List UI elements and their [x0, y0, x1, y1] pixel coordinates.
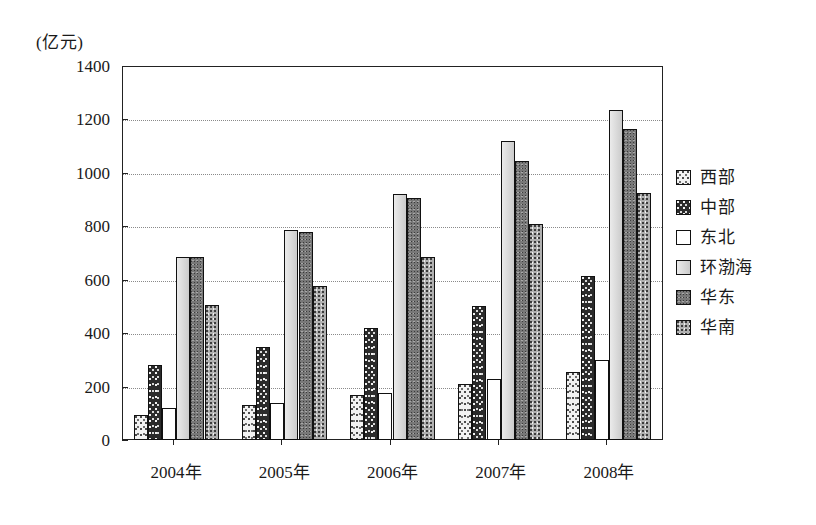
legend-swatch-icon	[676, 230, 691, 245]
bar	[566, 372, 580, 440]
legend-label: 中部	[700, 199, 735, 216]
x-tick-label: 2007年	[451, 458, 551, 483]
legend-swatch-icon	[676, 170, 691, 185]
legend-label: 环渤海	[700, 259, 753, 276]
legend-item-东北: 东北	[676, 222, 753, 252]
bar	[472, 306, 486, 440]
bar	[487, 379, 501, 440]
legend-swatch-icon	[676, 200, 691, 215]
bar	[176, 257, 190, 440]
bar	[284, 230, 298, 440]
y-tick-label: 400	[0, 325, 110, 342]
bars-layer	[122, 66, 663, 440]
bar	[378, 393, 392, 440]
bar	[623, 129, 637, 440]
legend-item-中部: 中部	[676, 192, 753, 222]
legend-label: 华南	[700, 319, 735, 336]
bar	[515, 161, 529, 440]
bar	[364, 328, 378, 440]
y-tick-label: 0	[0, 432, 110, 449]
bar	[313, 286, 327, 440]
bar	[637, 193, 651, 440]
bar	[270, 403, 284, 440]
legend-swatch-icon	[676, 320, 691, 335]
bar	[458, 384, 472, 440]
bar-chart: (亿元) 1400120010008006004002000 2004年2005…	[0, 0, 816, 525]
bar	[393, 194, 407, 440]
y-tick-label: 200	[0, 379, 110, 396]
y-tick-label: 600	[0, 272, 110, 289]
legend-label: 东北	[700, 229, 735, 246]
x-tick-mark	[390, 440, 391, 445]
bar	[190, 257, 204, 440]
x-tick-mark	[281, 440, 282, 445]
y-tick-label: 1200	[0, 111, 110, 128]
bar	[205, 305, 219, 440]
bar	[350, 395, 364, 440]
legend-item-华东: 华东	[676, 282, 753, 312]
legend-item-环渤海: 环渤海	[676, 252, 753, 282]
bar	[609, 110, 623, 440]
y-axis-unit-label: (亿元)	[36, 28, 83, 53]
legend-swatch-icon	[676, 290, 691, 305]
bar	[595, 360, 609, 440]
x-tick-label: 2008年	[559, 458, 659, 483]
legend-label: 西部	[700, 169, 735, 186]
bar	[421, 257, 435, 440]
x-tick-label: 2006年	[343, 458, 443, 483]
bar	[256, 347, 270, 440]
bar	[162, 408, 176, 440]
x-tick-label: 2005年	[234, 458, 334, 483]
legend: 西部中部东北环渤海华东华南	[676, 162, 753, 342]
y-tick-label: 1400	[0, 58, 110, 75]
y-tick-mark	[122, 440, 128, 441]
x-tick-mark	[606, 440, 607, 445]
bar	[242, 405, 256, 440]
bar	[501, 141, 515, 440]
legend-swatch-icon	[676, 260, 691, 275]
bar	[407, 198, 421, 440]
y-tick-label: 800	[0, 218, 110, 235]
x-tick-label: 2004年	[126, 458, 226, 483]
legend-item-西部: 西部	[676, 162, 753, 192]
x-tick-mark	[498, 440, 499, 445]
legend-item-华南: 华南	[676, 312, 753, 342]
bar	[148, 365, 162, 440]
legend-label: 华东	[700, 289, 735, 306]
x-tick-mark	[173, 440, 174, 445]
bar	[134, 415, 148, 440]
bar	[581, 276, 595, 440]
bar	[529, 224, 543, 440]
y-tick-label: 1000	[0, 165, 110, 182]
bar	[299, 232, 313, 440]
